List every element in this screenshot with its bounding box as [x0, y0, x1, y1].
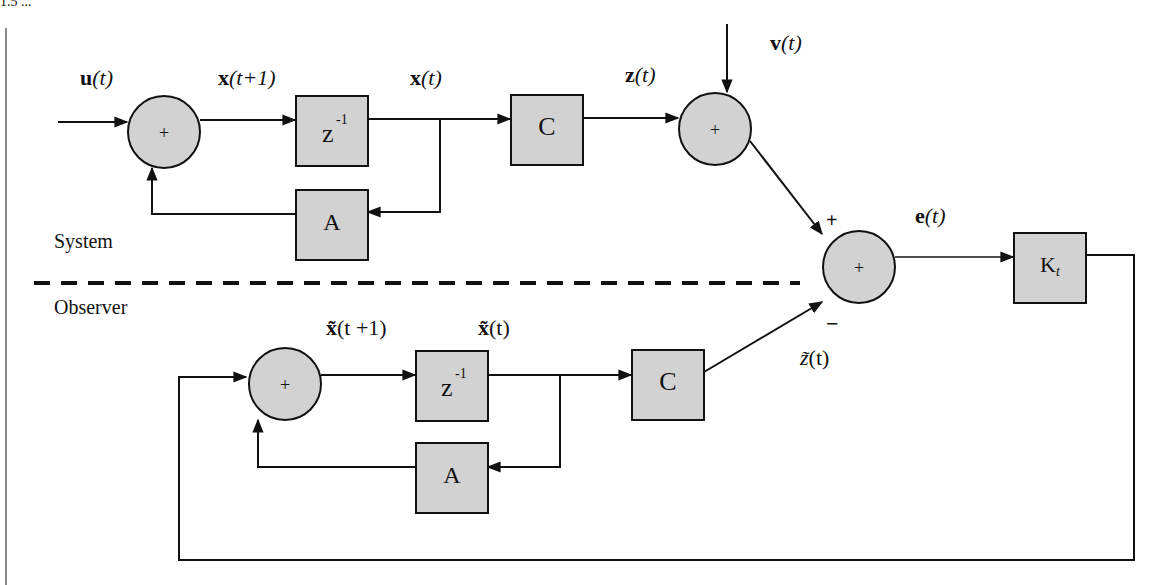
error-plus-sign: + — [826, 209, 837, 231]
observer-a-to-sum-line — [258, 420, 416, 467]
observer-region-label: Observer — [54, 296, 128, 318]
system-delay-label: z — [322, 119, 334, 148]
output-label: z(t) — [625, 62, 656, 87]
observer-state-next-label: x̃(t +1) — [326, 315, 387, 340]
observer-delay-label: z — [441, 373, 453, 402]
block-diagram: 1.5 ... + z -1 A C + u(t) — [0, 0, 1157, 585]
estimated-output-label: z̃(t) — [799, 345, 829, 370]
feedback-to-a-line — [368, 119, 440, 212]
observer-state-label: x̃(t) — [478, 315, 510, 340]
system-delay-exponent: -1 — [336, 112, 348, 127]
observer-delay-exponent: -1 — [455, 366, 467, 381]
system-region-label: System — [54, 230, 113, 253]
observer-sum-symbol: + — [280, 375, 290, 395]
observer-section: + z -1 A C x̃(t +1) x̃(t) z̃(t) — [249, 302, 829, 513]
observer-c-label: C — [659, 367, 676, 396]
error-label: e(t) — [915, 203, 946, 228]
input-label: u(t) — [80, 65, 113, 90]
system-a-label: A — [323, 209, 341, 235]
header-fragment: 1.5 ... — [0, 0, 32, 9]
state-next-label: x(t+1) — [218, 65, 276, 90]
noise-sum-symbol: + — [710, 120, 720, 140]
state-label: x(t) — [410, 65, 442, 90]
observer-a-label: A — [443, 462, 461, 488]
system-section: + z -1 A C + u(t) x(t+1) x(t) z(t) v(t) — [54, 24, 822, 260]
a-to-sum-line — [152, 168, 296, 214]
error-sum-symbol: + — [854, 258, 864, 278]
measurement-to-error-arrow — [750, 141, 822, 234]
noise-label: v(t) — [770, 30, 802, 55]
system-c-label: C — [538, 112, 555, 141]
system-sum-symbol: + — [159, 123, 169, 143]
error-minus-sign: − — [826, 311, 839, 336]
observer-feedback-to-a-line — [488, 375, 560, 467]
